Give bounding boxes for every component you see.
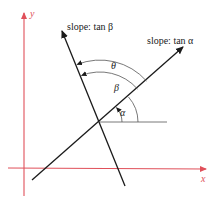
line-beta-slope-label: slope: tan β [67,21,113,32]
theta-label: θ [111,60,116,71]
beta-label: β [113,82,119,93]
x-axis-label: x [200,173,206,184]
x-axis [8,168,206,169]
alpha-outer-arc [129,97,139,122]
angle-between-lines-diagram: y x α β θ slope: tan β slope: tan α [0,0,210,206]
beta-arc [82,72,138,89]
diagram-canvas: y x α β θ slope: tan β slope: tan α [0,0,210,206]
line-beta [62,31,125,186]
alpha-label: α [120,107,126,118]
line-alpha [32,47,183,180]
line-alpha-slope-label: slope: tan α [147,35,194,46]
y-axis-label: y [29,8,35,19]
